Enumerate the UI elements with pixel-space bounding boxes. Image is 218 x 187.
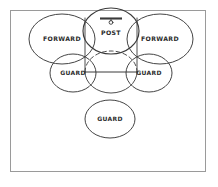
label-forward-left: FORWARD	[43, 36, 81, 42]
label-guard-bottom: GUARD	[97, 116, 123, 122]
label-guard-right: GUARD	[136, 70, 162, 76]
label-guard-left: GUARD	[60, 70, 86, 76]
screenshot-root: POST FORWARD FORWARD GUARD GUARD GUARD	[0, 0, 218, 187]
label-forward-right: FORWARD	[141, 36, 179, 42]
label-post: POST	[101, 30, 121, 36]
